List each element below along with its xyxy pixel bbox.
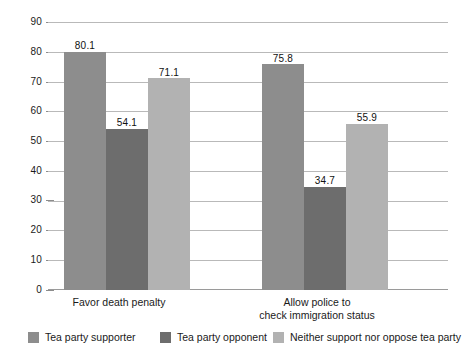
gridline	[48, 82, 448, 83]
gridline	[48, 52, 448, 53]
bar-group1-series3	[148, 78, 190, 290]
bar-value-label: 75.8	[262, 54, 304, 64]
y-tick-label: 50	[14, 136, 42, 146]
y-tick-label: 30	[14, 195, 42, 205]
bar-value-label: 71.1	[148, 68, 190, 78]
y-tick-label: 90	[14, 17, 42, 27]
legend-swatch-icon	[273, 332, 284, 343]
legend-label: Tea party supporter	[45, 331, 135, 343]
bar-group2-series3	[346, 124, 388, 290]
y-tick-label: 80	[14, 47, 42, 57]
legend: Tea party supporter Tea party opponent N…	[0, 331, 468, 351]
legend-swatch-icon	[28, 332, 39, 343]
legend-label: Neither support nor oppose tea party	[290, 331, 461, 343]
gridline	[48, 111, 448, 112]
bar-value-label: 80.1	[64, 41, 106, 51]
bar-group2-series1	[262, 64, 304, 290]
bar-value-label: 34.7	[304, 176, 346, 186]
bar-group1-series1	[64, 52, 106, 291]
legend-item-tea-party-opponent[interactable]: Tea party opponent	[160, 331, 267, 343]
plot-area	[48, 22, 448, 290]
y-tick-mark	[46, 290, 54, 291]
legend-item-tea-party-supporter[interactable]: Tea party supporter	[28, 331, 135, 343]
y-tick-label: 70	[14, 77, 42, 87]
y-tick-label: 0	[14, 285, 42, 295]
bar-chart: 90 80 70 60 50 40 30 20 10 0	[0, 0, 468, 361]
y-tick-label: 40	[14, 166, 42, 176]
legend-item-neither-support-nor-oppose[interactable]: Neither support nor oppose tea party	[273, 331, 461, 343]
bar-group1-series2	[106, 129, 148, 290]
legend-label: Tea party opponent	[177, 331, 267, 343]
category-label-allow-police-check-immigration: Allow police to check immigration status	[237, 296, 397, 322]
y-tick-label: 60	[14, 106, 42, 116]
bar-value-label: 54.1	[106, 118, 148, 128]
bar-group2-series2	[304, 187, 346, 290]
bar-value-label: 55.9	[346, 113, 388, 123]
category-label-favor-death-penalty: Favor death penalty	[39, 296, 199, 309]
y-tick-label: 10	[14, 255, 42, 265]
y-tick-label: 20	[14, 225, 42, 235]
gridline	[48, 22, 448, 23]
legend-swatch-icon	[160, 332, 171, 343]
